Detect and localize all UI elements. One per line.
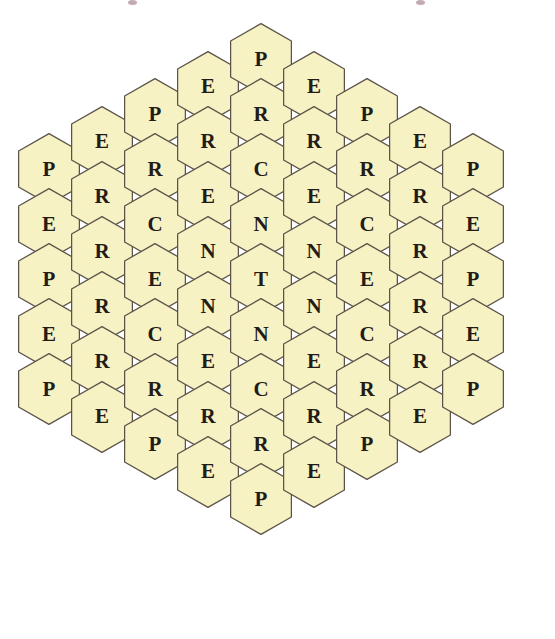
hex-letter: P xyxy=(361,434,374,455)
hex-letter: P xyxy=(255,49,268,70)
hex-letter: P xyxy=(43,379,56,400)
hex-letter: P xyxy=(467,269,480,290)
hex-letter: E xyxy=(466,324,480,345)
hex-letter: E xyxy=(148,269,162,290)
hex-letter: R xyxy=(200,131,215,152)
hex-cell[interactable]: P xyxy=(442,353,504,425)
hex-letter: N xyxy=(253,324,268,345)
top-artifact-right xyxy=(416,0,425,5)
hex-letter: T xyxy=(254,269,268,290)
hex-letter: P xyxy=(467,379,480,400)
hex-letter: E xyxy=(360,269,374,290)
hex-letter: P xyxy=(361,104,374,125)
hex-letter: N xyxy=(306,241,321,262)
hex-letter: P xyxy=(255,489,268,510)
hex-letter: E xyxy=(42,214,56,235)
hex-letter: R xyxy=(94,186,109,207)
hex-letter: R xyxy=(412,186,427,207)
hex-letter: E xyxy=(413,131,427,152)
hex-letter: E xyxy=(95,406,109,427)
hex-letter: C xyxy=(253,379,268,400)
hex-letter: R xyxy=(359,379,374,400)
hex-letter: R xyxy=(94,296,109,317)
hex-letter: C xyxy=(359,324,374,345)
hex-letter: R xyxy=(147,159,162,180)
hex-letter: E xyxy=(201,351,215,372)
hex-letter: P xyxy=(43,269,56,290)
hex-letter: N xyxy=(306,296,321,317)
hex-letter: R xyxy=(253,104,268,125)
hex-letter: E xyxy=(307,76,321,97)
hex-letter: E xyxy=(466,214,480,235)
hex-letter: R xyxy=(94,351,109,372)
hex-letter: P xyxy=(149,434,162,455)
hex-letter: R xyxy=(412,296,427,317)
hex-letter: R xyxy=(412,241,427,262)
hex-letter: R xyxy=(94,241,109,262)
hex-letter: E xyxy=(201,76,215,97)
hex-letter: E xyxy=(95,131,109,152)
hex-letter: E xyxy=(307,351,321,372)
hex-letter: R xyxy=(147,379,162,400)
hex-letter: R xyxy=(253,434,268,455)
hex-letter: E xyxy=(42,324,56,345)
hex-letter: R xyxy=(306,406,321,427)
hex-letter: N xyxy=(200,241,215,262)
hex-letter: R xyxy=(412,351,427,372)
hex-letter: P xyxy=(43,159,56,180)
hex-letter: C xyxy=(147,214,162,235)
hex-letter: R xyxy=(359,159,374,180)
hex-letter: C xyxy=(253,159,268,180)
hex-letter: N xyxy=(253,214,268,235)
hex-letter: C xyxy=(359,214,374,235)
hex-letter: E xyxy=(307,186,321,207)
hex-letter: E xyxy=(307,461,321,482)
top-artifact-left xyxy=(128,0,137,5)
hex-letter: C xyxy=(147,324,162,345)
hex-letter: E xyxy=(413,406,427,427)
hex-letter: N xyxy=(200,296,215,317)
hex-letter: R xyxy=(306,131,321,152)
hex-letter: E xyxy=(201,461,215,482)
hex-letter: P xyxy=(467,159,480,180)
hex-letter: R xyxy=(200,406,215,427)
hex-letter: P xyxy=(149,104,162,125)
hexagon-puzzle-board: PEPEPERRRREPRCECRPERENNEREPRCNTNCRPERENN… xyxy=(0,0,555,639)
hex-letter: E xyxy=(201,186,215,207)
